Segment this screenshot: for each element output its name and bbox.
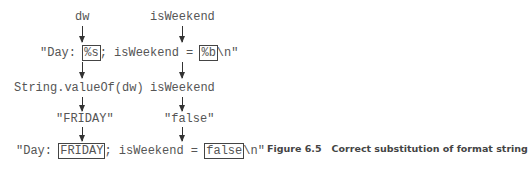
result-suffix: \n": [243, 144, 265, 158]
arrow-down-icon: [182, 26, 183, 42]
figure-caption-text: Correct substitution of format string: [332, 143, 528, 154]
arrow-down-icon: [82, 62, 83, 78]
figure-number: Figure 6.5: [267, 143, 322, 154]
format-string: "Day: %s; isWeekend = %b\n": [40, 46, 238, 60]
var-dw-label: dw: [75, 10, 89, 24]
false-value-label: "false": [164, 112, 214, 126]
result-middle: ; isWeekend =: [104, 144, 205, 158]
friday-box: FRIDAY: [58, 143, 105, 159]
false-box: false: [204, 143, 244, 159]
format-suffix: \n": [217, 46, 239, 60]
friday-value-label: "FRIDAY": [56, 112, 114, 126]
result-prefix: "Day:: [16, 144, 59, 158]
arrow-down-icon: [82, 26, 83, 42]
string-valueof-label: String.valueOf(dw): [14, 81, 144, 95]
arrow-down-icon: [182, 97, 183, 111]
format-prefix: "Day:: [40, 46, 83, 60]
specifier-s-box: %s: [82, 45, 100, 61]
figure-caption: Figure 6.5Correct substitution of format…: [267, 143, 528, 154]
arrow-down-icon: [82, 127, 83, 141]
result-string: "Day: FRIDAY; isWeekend = false\n": [16, 144, 265, 158]
arrow-down-icon: [182, 127, 183, 141]
format-middle: ; isWeekend =: [100, 46, 201, 60]
isweekend-label-2: isWeekend: [150, 81, 215, 95]
arrow-down-icon: [182, 62, 183, 78]
arrow-down-icon: [82, 97, 83, 111]
var-isweekend-label: isWeekend: [150, 10, 215, 24]
specifier-b-box: %b: [199, 45, 217, 61]
